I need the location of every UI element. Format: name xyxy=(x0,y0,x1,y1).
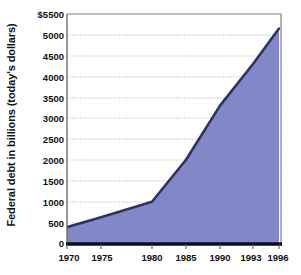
x-tick-label-1985: 1985 xyxy=(175,252,196,263)
x-tick-label-1993: 1993 xyxy=(240,252,261,263)
x-tick-label-1975: 1975 xyxy=(91,252,112,263)
federal-debt-area-chart: Federal debt in billions (today's dollar… xyxy=(0,0,301,275)
x-tick-label-1980: 1980 xyxy=(141,252,162,263)
x-tick-label-1970: 1970 xyxy=(58,252,79,263)
x-tick-label-1990: 1990 xyxy=(209,252,230,263)
x-axis-tick-labels: 1970 1975 1980 1985 1990 1993 1996 xyxy=(0,0,301,275)
x-tick-label-1996: 1996 xyxy=(267,252,288,263)
